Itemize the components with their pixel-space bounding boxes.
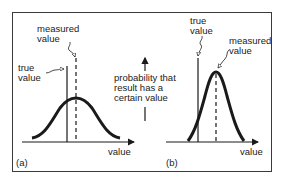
true-value-label-b: true value	[190, 16, 213, 36]
probability-caption-line3: certain value	[114, 93, 176, 103]
measured-label-a-line2: value	[37, 34, 79, 44]
panel-tag-a: (a)	[16, 158, 28, 168]
true-value-label-a: true value	[18, 63, 41, 83]
x-axis-label-a: value	[108, 147, 131, 157]
measured-value-label-b: measured value	[229, 36, 271, 56]
probability-caption: probability that result has a certain va…	[114, 73, 176, 103]
measured-value-pointer-b	[218, 50, 229, 68]
x-axis-label-b: value	[240, 147, 263, 157]
measured-label-b-line2: value	[229, 46, 271, 56]
true-label-a-line2: value	[18, 73, 41, 83]
measured-value-pointer-a	[68, 42, 75, 57]
measured-value-label-a: measured value	[37, 24, 79, 44]
true-value-pointer-b	[198, 36, 202, 56]
panel-tag-b: (b)	[166, 158, 178, 168]
true-value-pointer-a	[46, 69, 64, 73]
true-label-b-line2: value	[190, 26, 213, 36]
